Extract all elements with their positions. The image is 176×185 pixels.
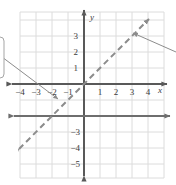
x-tick-label: −3 — [31, 87, 41, 97]
x-tick-label: 3 — [130, 87, 135, 97]
y-tick-label: 3 — [74, 31, 79, 41]
y-tick-label: 1 — [74, 63, 79, 73]
y-axis-label: y — [89, 12, 94, 22]
x-tick-label: −1 — [63, 87, 73, 97]
x-axis-label: x — [157, 85, 162, 95]
x-tick-label: 1 — [98, 87, 103, 97]
coordinate-plane-graph: −4 −3 −2 −1 1 2 3 4 3 2 1 −3 −4 −5 x y — [0, 0, 176, 185]
y-tick-label: −4 — [70, 143, 80, 153]
left-callout-box-edge — [0, 37, 4, 78]
x-tick-label: −4 — [15, 87, 25, 97]
graph-canvas: −4 −3 −2 −1 1 2 3 4 3 2 1 −3 −4 −5 x y — [0, 0, 176, 185]
y-tick-label: 2 — [74, 47, 79, 57]
y-tick-label: −5 — [70, 159, 80, 169]
x-tick-label: 4 — [146, 87, 151, 97]
y-tick-label: −3 — [70, 127, 80, 137]
x-tick-label: 2 — [114, 87, 119, 97]
